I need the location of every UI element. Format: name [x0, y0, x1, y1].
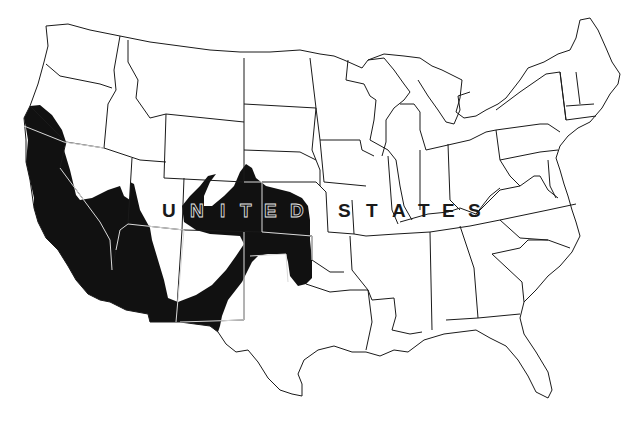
label-letter-a: A — [392, 200, 406, 221]
label-letter-u: U — [162, 200, 176, 221]
label-letter-i: I — [220, 200, 225, 221]
label-letter-t1: T — [366, 200, 378, 221]
label-letter-e2: E — [442, 200, 455, 221]
label-letter-t: T — [240, 200, 252, 221]
label-letter-s2: S — [468, 200, 481, 221]
label-letter-s1: S — [338, 200, 351, 221]
label-letter-e: E — [264, 200, 277, 221]
label-letter-t2: T — [418, 200, 430, 221]
us-map: U N I T E D S T A T E S — [0, 0, 634, 426]
map-canvas: U N I T E D S T A T E S — [0, 0, 634, 426]
label-letter-n: N — [190, 200, 204, 221]
label-letter-d: D — [290, 200, 304, 221]
